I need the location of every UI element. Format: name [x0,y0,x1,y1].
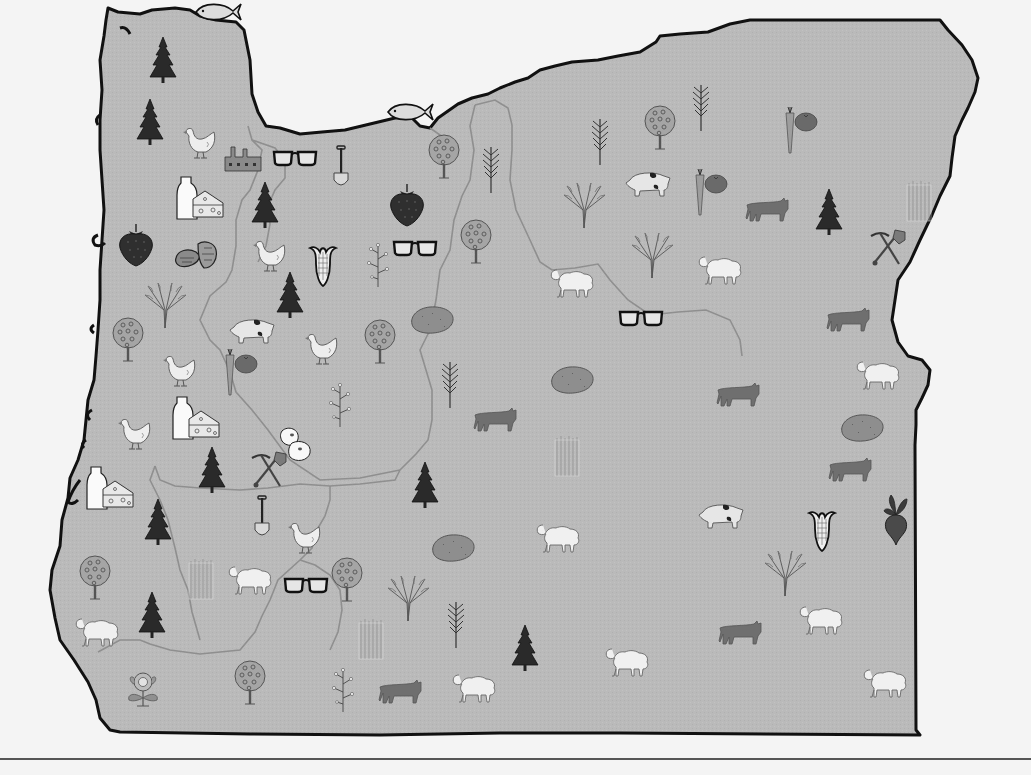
orchard-icon [330,557,364,603]
herb-icon [325,381,355,429]
vegetables-icon [780,105,820,155]
cattle-icon [376,677,424,707]
orchard-icon [427,134,461,180]
wheat-icon [479,145,503,195]
fish-icon [193,0,243,24]
sheep-icon [548,266,596,300]
wheat-icon [588,117,612,167]
tree-icon [250,180,280,230]
orchard-icon [459,219,493,265]
tree-icon [148,35,178,85]
orchard-icon [233,660,267,706]
tree-icon [197,445,227,495]
potato-icon [548,364,596,396]
asparagus-icon [187,555,217,601]
flower-icon [123,668,163,708]
tree-icon [135,97,165,147]
asparagus-icon [553,432,583,478]
hazelnut-icon [174,238,222,272]
glasses-icon [392,239,438,257]
cattle-icon [471,405,519,435]
factory-icon [223,143,263,173]
cattle-icon [826,455,874,485]
orchard-icon [78,555,112,601]
orchard-icon [111,317,145,363]
sheep-icon [854,358,902,392]
vegetables-icon [220,347,260,397]
wheat-icon [689,83,713,133]
sheep-icon [534,521,582,555]
pig-icon [228,315,276,345]
sheep-icon [450,671,498,705]
wheat-bundle-icon [561,180,607,230]
herb-icon [328,666,358,714]
cattle-icon [743,195,791,225]
pig-icon [624,168,672,198]
shovel-icon [331,145,351,191]
sheep-icon [797,603,845,637]
chicken-icon [284,517,326,557]
bottom-divider [0,758,1031,760]
tree-icon [410,460,440,510]
tree-icon [137,590,167,640]
asparagus-icon [357,615,387,661]
shovel-icon [252,495,272,541]
vegetables-icon [690,167,730,217]
chicken-icon [301,328,343,368]
tree-icon [814,187,844,237]
cattle-icon [716,618,764,648]
strawberry-icon [387,182,427,228]
milk-cheese-icon [85,465,135,511]
tree-icon [143,497,173,547]
potato-icon [429,532,477,564]
orchard-icon [643,105,677,151]
wheat-bundle-icon [629,230,675,280]
herb-icon [363,241,393,289]
glasses-icon [272,149,318,167]
glasses-icon [283,576,329,594]
wheat-bundle-icon [142,280,188,330]
beet-icon [881,493,911,547]
asparagus-icon [905,177,935,223]
corn-icon [807,507,837,553]
milk-cheese-icon [175,175,225,221]
tree-icon [275,270,305,320]
mining-icon [248,450,288,490]
chicken-icon [114,413,156,453]
mining-icon [867,228,907,268]
wheat-bundle-icon [385,573,431,623]
sheep-icon [226,563,274,597]
sheep-icon [861,666,909,700]
wheat-bundle-icon [762,548,808,598]
chicken-icon [159,350,201,390]
cattle-icon [824,305,872,335]
cattle-icon [714,380,762,410]
chicken-icon [179,122,221,162]
wheat-icon [438,360,462,410]
corn-icon [308,242,338,288]
sheep-icon [603,645,651,679]
fish-icon [385,100,435,124]
potato-icon [838,412,886,444]
glasses-icon [618,309,664,327]
tree-icon [510,623,540,673]
sheep-icon [73,615,121,649]
wheat-icon [444,600,468,650]
sheep-icon [696,253,744,287]
milk-cheese-icon [171,395,221,441]
potato-icon [408,304,456,336]
orchard-icon [363,319,397,365]
chicken-icon [249,235,291,275]
pig-icon [697,500,745,530]
strawberry-icon [116,222,156,268]
